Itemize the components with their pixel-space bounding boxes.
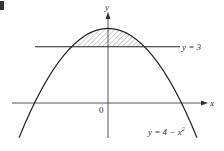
diagram-canvas: x y 0 y = 3 y = 4 − x2 xyxy=(0,0,224,151)
y-axis-arrow-icon xyxy=(106,12,111,19)
x-axis-arrow-icon xyxy=(201,101,208,106)
origin-label: 0 xyxy=(99,105,104,115)
parabola-label-base: y = 4 − x xyxy=(147,127,182,137)
corner-mark xyxy=(0,1,4,10)
line-y-3-label: y = 3 xyxy=(181,42,202,52)
parabola-label-exponent: 2 xyxy=(182,126,185,132)
parabola-label: y = 4 − x2 xyxy=(147,126,185,137)
x-axis-label: x xyxy=(209,98,214,108)
y-axis-label: y xyxy=(104,2,109,12)
